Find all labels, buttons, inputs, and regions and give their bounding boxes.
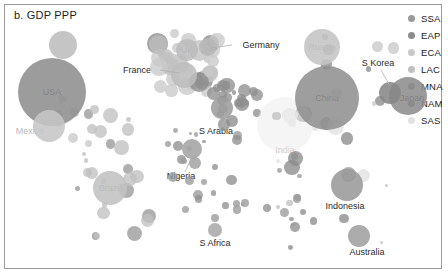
bubble-unlabeled[interactable] — [211, 190, 217, 196]
bubble-unlabeled[interactable] — [232, 135, 242, 145]
bubble-unlabeled[interactable] — [251, 89, 263, 101]
bubble-uk[interactable] — [176, 39, 198, 61]
bubble-unlabeled[interactable] — [211, 214, 219, 222]
bubble-unlabeled[interactable] — [85, 140, 92, 147]
bubble-unlabeled[interactable] — [185, 176, 194, 185]
bubble-unlabeled[interactable] — [280, 208, 289, 217]
bubble-unlabeled[interactable] — [241, 199, 249, 207]
bubble-unlabeled[interactable] — [201, 179, 207, 185]
bubble-layer — [0, 0, 448, 275]
bubble-s-korea[interactable] — [379, 82, 401, 104]
bubble-russia[interactable] — [304, 29, 340, 65]
bubble-unlabeled[interactable] — [300, 209, 306, 215]
bubble-unlabeled[interactable] — [212, 164, 218, 170]
bubble-france[interactable] — [171, 62, 197, 88]
bubble-unlabeled[interactable] — [114, 140, 128, 154]
bubble-unlabeled[interactable] — [202, 140, 206, 144]
bubble-unlabeled[interactable] — [173, 128, 178, 133]
bubble-germany[interactable] — [199, 38, 217, 56]
bubble-unlabeled[interactable] — [289, 217, 294, 222]
bubble-unlabeled[interactable] — [207, 55, 219, 67]
bubble-unlabeled[interactable] — [238, 84, 251, 97]
bubble-unlabeled[interactable] — [372, 101, 377, 106]
bubble-unlabeled[interactable] — [154, 80, 167, 93]
bubble-unlabeled[interactable] — [372, 41, 383, 52]
bubble-unlabeled[interactable] — [182, 206, 189, 213]
bubble-unlabeled[interactable] — [339, 214, 349, 224]
bubble-china[interactable] — [295, 66, 359, 130]
bubble-unlabeled[interactable] — [222, 202, 229, 209]
bubble-unlabeled[interactable] — [235, 97, 249, 111]
bubble-unlabeled[interactable] — [189, 132, 192, 135]
bubble-australia[interactable] — [348, 225, 370, 247]
bubble-unlabeled[interactable] — [94, 233, 100, 239]
bubble-unlabeled[interactable] — [277, 168, 282, 173]
bubble-unlabeled[interactable] — [226, 175, 236, 185]
bubble-nigeria[interactable] — [182, 139, 202, 159]
bubble-indonesia[interactable] — [331, 169, 363, 201]
bubble-unlabeled[interactable] — [150, 58, 167, 75]
bubble-unlabeled[interactable] — [170, 29, 179, 38]
bubble-unlabeled[interactable] — [165, 141, 171, 147]
bubble-unlabeled[interactable] — [90, 105, 99, 114]
bubble-unlabeled[interactable] — [276, 159, 280, 163]
bubble-unlabeled[interactable] — [366, 66, 372, 72]
bubble-unlabeled[interactable] — [341, 132, 353, 144]
bubble-unlabeled[interactable] — [75, 186, 81, 192]
bubble-unlabeled[interactable] — [286, 200, 293, 207]
bubble-brazil[interactable] — [93, 171, 127, 205]
bubble-unlabeled[interactable] — [127, 226, 142, 241]
bubble-unlabeled[interactable] — [380, 241, 383, 244]
bubble-unlabeled[interactable] — [293, 194, 302, 203]
chart-container: b. GDP PPP USA Mexico Brazil Germany Fra… — [0, 0, 448, 275]
bubble-s-arabia[interactable] — [211, 97, 233, 119]
bubble-unlabeled[interactable] — [122, 123, 135, 136]
bubble-unlabeled[interactable] — [195, 195, 202, 202]
bubble-unlabeled[interactable] — [233, 200, 240, 207]
bubble-unlabeled[interactable] — [385, 184, 388, 187]
bubble-unlabeled[interactable] — [276, 205, 281, 210]
bubble-unlabeled[interactable] — [388, 42, 399, 53]
bubble-unlabeled[interactable] — [84, 158, 89, 163]
bubble-unlabeled[interactable] — [310, 217, 318, 225]
bubble-s-africa[interactable] — [208, 223, 222, 237]
bubble-unlabeled[interactable] — [181, 158, 187, 164]
bubble-unlabeled[interactable] — [263, 204, 271, 212]
bubble-unlabeled[interactable] — [94, 125, 107, 138]
bubble-unlabeled[interactable] — [68, 133, 78, 143]
bubble-unlabeled[interactable] — [297, 174, 301, 178]
bubble-unlabeled[interactable] — [291, 223, 294, 226]
bubble-unlabeled[interactable] — [141, 214, 155, 228]
bubble-unlabeled[interactable] — [194, 132, 199, 137]
bubble-mexico[interactable] — [33, 110, 65, 142]
bubble-unlabeled[interactable] — [168, 172, 178, 182]
bubble-unlabeled[interactable] — [106, 139, 115, 148]
bubble-unlabeled[interactable] — [97, 207, 110, 220]
bubble-unlabeled[interactable] — [126, 117, 131, 122]
bubble-canada[interactable] — [49, 31, 77, 59]
bubble-unlabeled[interactable] — [288, 245, 293, 250]
bubble-unlabeled[interactable] — [82, 152, 86, 156]
bubble-unlabeled[interactable] — [103, 108, 118, 123]
